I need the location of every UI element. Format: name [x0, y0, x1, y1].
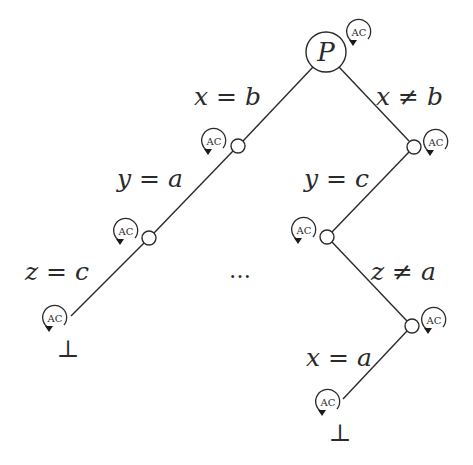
ac-icon: AC — [202, 128, 226, 155]
node-y-eq-c — [320, 230, 334, 244]
node-z-neq-a — [405, 319, 419, 333]
edge-label-y-eq-a: y = a — [116, 164, 183, 193]
ac-icon-label: AC — [426, 315, 442, 326]
edge-label-z-eq-c: z = c — [24, 257, 89, 286]
edge-label-z-neq-a: z ≠ a — [370, 257, 436, 286]
ac-icon-label: AC — [296, 225, 312, 236]
ac-icon: AC — [347, 19, 371, 46]
ac-icon: AC — [292, 217, 316, 244]
ac-icon: AC — [114, 218, 138, 245]
ac-icon: AC — [43, 305, 67, 332]
node-y-eq-a — [142, 231, 156, 245]
node-x-eq-b — [231, 139, 245, 153]
ac-icon-label: AC — [428, 137, 444, 148]
ac-icon-label: AC — [118, 226, 134, 237]
ac-icon: AC — [422, 307, 446, 334]
decision-tree-diagram: P x = b x ≠ b y = a y = c z = c z ≠ a x … — [0, 0, 473, 465]
ellipsis: … — [229, 258, 251, 283]
ac-icon: AC — [424, 129, 448, 156]
node-x-neq-b — [407, 140, 421, 154]
edge-label-x-neq-b: x ≠ b — [376, 82, 443, 111]
ac-icon: AC — [316, 389, 340, 416]
root-node-label: P — [316, 37, 335, 67]
edge-label-y-eq-c: y = c — [303, 164, 369, 193]
ac-icon-label: AC — [47, 313, 63, 324]
leaf-left-bottom-symbol: ⊥ — [57, 335, 80, 363]
ac-icon-label: AC — [206, 136, 222, 147]
edge-label-x-eq-b: x = b — [194, 82, 261, 111]
ac-icon-label: AC — [320, 397, 336, 408]
ac-icon-label: AC — [351, 27, 367, 38]
edge-label-x-eq-a: x = a — [306, 343, 372, 372]
leaf-right-bottom-symbol: ⊥ — [329, 419, 352, 447]
